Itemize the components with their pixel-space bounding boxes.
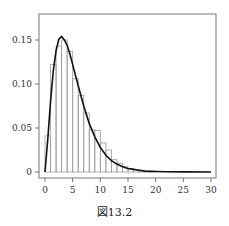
x-tick-label: 25 <box>178 185 190 195</box>
histogram-bar <box>62 40 68 172</box>
y-tick-label: 0.05 <box>12 123 32 133</box>
y-tick-label: 0.15 <box>12 35 32 45</box>
x-tick-label: 5 <box>70 185 76 195</box>
histogram-chart: 051015202530 00.050.100.15 <box>0 0 229 226</box>
histogram-bars <box>45 40 156 172</box>
plot-frame <box>39 14 216 178</box>
figure-caption: 図13.2 <box>0 203 229 219</box>
histogram-bar <box>78 95 84 172</box>
y-tick-label: 0.10 <box>12 79 32 89</box>
x-axis: 051015202530 <box>42 178 217 195</box>
y-axis: 00.050.100.15 <box>12 35 39 177</box>
histogram-bar <box>73 79 79 172</box>
x-tick-label: 0 <box>42 185 48 195</box>
histogram-bar <box>106 150 112 172</box>
histogram-bar <box>51 65 57 172</box>
x-tick-label: 20 <box>150 185 162 195</box>
x-tick-label: 30 <box>205 185 217 195</box>
x-tick-label: 15 <box>122 185 134 195</box>
y-tick-label: 0 <box>26 167 32 177</box>
histogram-bar <box>56 46 62 172</box>
histogram-bar <box>67 51 73 172</box>
density-curve <box>45 36 211 172</box>
x-tick-label: 10 <box>95 185 107 195</box>
